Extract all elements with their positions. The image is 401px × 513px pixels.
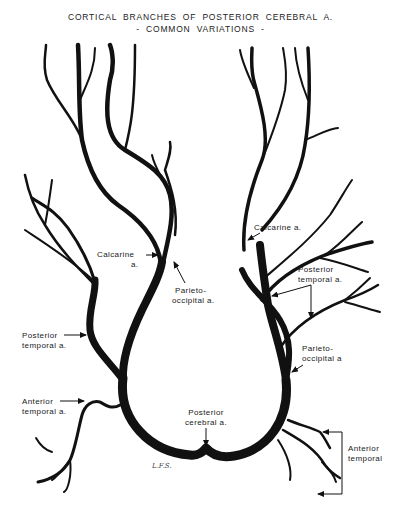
right-anterior-temporal-branches bbox=[278, 420, 340, 482]
label-right-posterior-temporal: Posterior temporal a. bbox=[298, 265, 342, 285]
label-left-anterior-temporal: Anterior temporal a. bbox=[22, 397, 66, 417]
left-trunk bbox=[90, 262, 162, 380]
left-posterior-temporal-branches bbox=[25, 175, 95, 285]
label-right-anterior-temporal: Anterior temporal bbox=[348, 444, 382, 464]
label-posterior-cerebral: Posterior cerebral a. bbox=[172, 408, 240, 428]
artery-diagram bbox=[0, 0, 401, 513]
label-left-calcarine: Calcarine a. bbox=[97, 250, 138, 270]
right-trunk bbox=[242, 245, 289, 380]
label-left-parieto-occipital: Parieto- occipital a. bbox=[172, 286, 215, 306]
artist-signature: L.F.S. bbox=[152, 462, 172, 470]
left-calcarine-branch bbox=[44, 45, 161, 264]
label-right-parieto-occipital: Parieto- occipital a bbox=[302, 344, 342, 364]
label-left-posterior-temporal: Posterior temporal a. bbox=[22, 331, 66, 351]
left-parieto-occipital-branch bbox=[107, 45, 176, 263]
label-right-calcarine: Calcarine a. bbox=[254, 223, 302, 233]
right-calcarine-branch bbox=[240, 48, 338, 250]
